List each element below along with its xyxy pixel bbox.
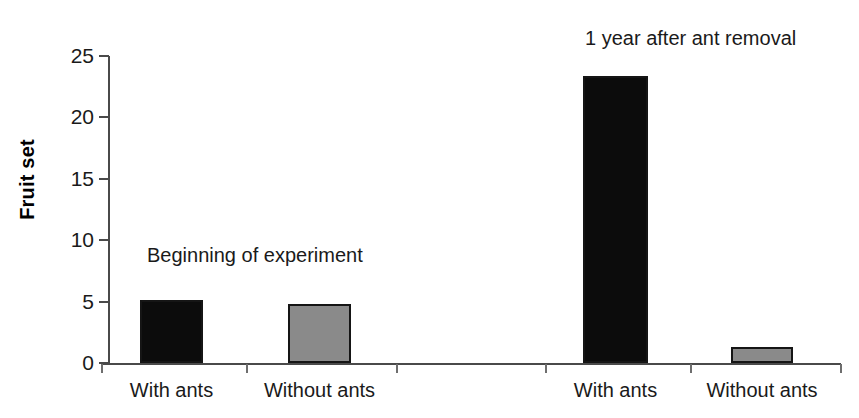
y-tick-10: [99, 239, 109, 241]
bar-3: [583, 76, 648, 363]
y-tick-label-wrap: 25: [48, 45, 94, 66]
bar-2: [288, 304, 351, 363]
y-tick-label-wrap: 20: [48, 106, 94, 127]
y-axis-line: [108, 56, 110, 364]
y-tick-label-wrap: 0: [48, 352, 94, 373]
y-tick-label-15: 15: [52, 168, 94, 189]
y-tick-label-0: 0: [52, 352, 94, 373]
y-tick-label-wrap: 15: [48, 168, 94, 189]
y-tick-25: [99, 55, 109, 57]
x-axis-label-2: Without ants: [235, 379, 405, 401]
x-tick-1: [246, 364, 248, 373]
y-tick-label-10: 10: [52, 229, 94, 250]
x-axis-label-3: With ants: [531, 379, 701, 401]
x-tick-4: [690, 364, 692, 373]
annotation-one-year-after-ant-removal: 1 year after ant removal: [585, 27, 796, 49]
y-tick-label-25: 25: [52, 45, 94, 66]
y-tick-label-20: 20: [52, 106, 94, 127]
y-tick-label-wrap: 5: [48, 291, 94, 312]
bar-1: [140, 300, 203, 363]
x-axis-line: [101, 363, 841, 365]
bar-chart-figure: Fruit set 2520151050 With antsWithout an…: [0, 0, 859, 418]
x-axis-label-4: Without ants: [677, 379, 847, 401]
x-tick-5: [840, 364, 842, 373]
x-tick-3: [545, 364, 547, 373]
y-tick-label-5: 5: [52, 291, 94, 312]
bar-4: [731, 347, 793, 363]
y-axis-title: Fruit set: [16, 120, 39, 240]
annotation-beginning-of-experiment: Beginning of experiment: [147, 244, 363, 266]
y-tick-15: [99, 178, 109, 180]
x-axis-label-1: With ants: [87, 379, 257, 401]
y-tick-label-wrap: 10: [48, 229, 94, 250]
x-tick-2: [396, 364, 398, 373]
x-tick-0: [101, 364, 103, 373]
y-tick-5: [99, 301, 109, 303]
y-tick-20: [99, 116, 109, 118]
